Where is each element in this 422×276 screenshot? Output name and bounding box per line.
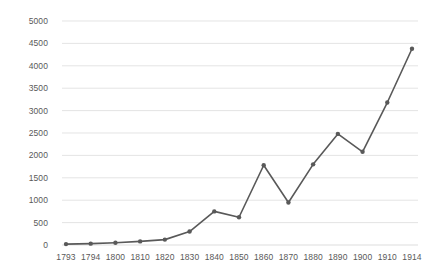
data-point bbox=[212, 209, 216, 213]
data-point bbox=[113, 241, 117, 245]
data-point bbox=[262, 163, 266, 167]
y-axis-tick-label: 3000 bbox=[8, 106, 48, 116]
data-point bbox=[187, 229, 191, 233]
data-line bbox=[66, 49, 412, 244]
line-chart: 0500100015002000250030003500400045005000… bbox=[0, 0, 422, 276]
data-point bbox=[163, 237, 167, 241]
data-markers bbox=[64, 47, 414, 247]
y-axis-tick-label: 5000 bbox=[8, 16, 48, 26]
data-point bbox=[385, 100, 389, 104]
y-axis-tick-label: 1000 bbox=[8, 195, 48, 205]
y-axis-tick-label: 2000 bbox=[8, 150, 48, 160]
data-point bbox=[410, 47, 414, 51]
data-point bbox=[64, 242, 68, 246]
y-axis-tick-label: 4500 bbox=[8, 38, 48, 48]
y-axis-tick-label: 2500 bbox=[8, 128, 48, 138]
data-point bbox=[360, 150, 364, 154]
y-axis-tick-label: 3500 bbox=[8, 83, 48, 93]
chart-plot-area bbox=[0, 0, 422, 276]
y-axis-tick-label: 0 bbox=[8, 240, 48, 250]
y-axis-tick-label: 4000 bbox=[8, 61, 48, 71]
data-point bbox=[89, 241, 93, 245]
gridlines bbox=[62, 21, 418, 245]
y-axis-tick-label: 500 bbox=[8, 218, 48, 228]
y-axis-tick-label: 1500 bbox=[8, 173, 48, 183]
data-point bbox=[138, 239, 142, 243]
data-point bbox=[336, 132, 340, 136]
data-point bbox=[286, 200, 290, 204]
data-point bbox=[311, 162, 315, 166]
x-axis-tick-label: 1914 bbox=[396, 252, 422, 262]
data-point bbox=[237, 215, 241, 219]
